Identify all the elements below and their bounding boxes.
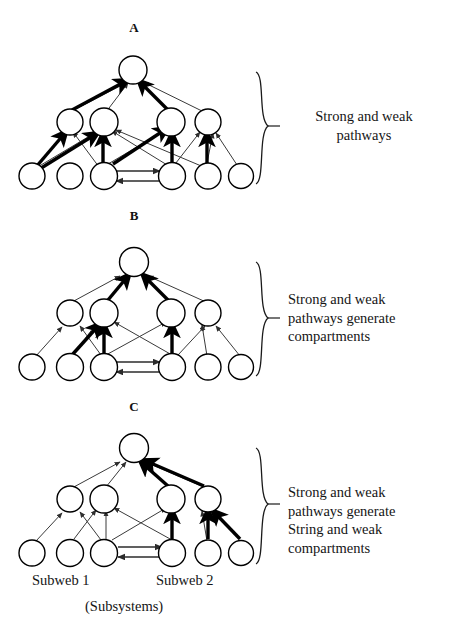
panel-a-caption: Strong and weak pathways (288, 107, 440, 144)
panel-b: B (0, 200, 449, 395)
brace-b (256, 262, 280, 376)
panel-a-graph (0, 0, 449, 200)
reciprocal-arrows-a (116, 171, 160, 181)
reciprocal-arrows-c (118, 547, 162, 557)
panel-a-caption-line-2: pathways (288, 126, 440, 145)
subweb-2-label: Subweb 2 (156, 572, 214, 589)
brace-c (256, 448, 280, 564)
panel-a-caption-line-1: Strong and weak (288, 107, 440, 126)
subweb-1-label: Subweb 1 (32, 572, 90, 589)
panel-b-caption: Strong and weak pathways generate compar… (288, 290, 446, 346)
panel-b-caption-line-2: pathways generate (288, 309, 446, 328)
nodes-b (19, 248, 254, 381)
panel-c-caption-line-2: pathways generate (288, 502, 446, 521)
panel-c-caption: Strong and weak pathways generate String… (288, 483, 446, 557)
panel-c-caption-line-4: compartments (288, 539, 446, 558)
nodes-a (19, 56, 254, 190)
panel-c: C (0, 395, 449, 620)
reciprocal-arrows-b (116, 362, 160, 372)
subsystems-label: (Subsystems) (85, 598, 163, 615)
brace-a (256, 72, 280, 184)
panel-c-caption-line-3: String and weak (288, 520, 446, 539)
panel-b-caption-line-3: compartments (288, 327, 446, 346)
panel-a: A (0, 0, 449, 200)
panel-c-caption-line-1: Strong and weak (288, 483, 446, 502)
panel-b-caption-line-1: Strong and weak (288, 290, 446, 309)
